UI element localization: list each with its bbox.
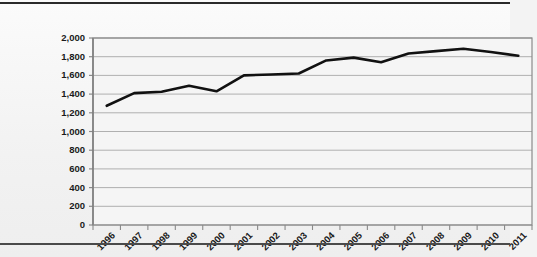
y-axis-tick-label: 1,600 <box>61 69 85 80</box>
line-chart-svg: 02004006008001,0001,2001,4001,6001,8002,… <box>40 22 537 256</box>
x-axis-tick-label-2010: 2010 <box>479 230 502 253</box>
x-axis-tick-label-1997: 1997 <box>122 230 145 253</box>
x-axis-tick-label-1999: 1999 <box>177 230 200 253</box>
x-axis-tick-label-2003: 2003 <box>286 230 309 253</box>
y-axis-tick-labels-group: 02004006008001,0001,2001,4001,6001,8002,… <box>61 32 85 230</box>
y-axis-tick-label: 200 <box>69 200 85 211</box>
x-axis-tick-label-2004: 2004 <box>314 229 337 252</box>
y-axis-tick-label: 1,800 <box>61 51 85 62</box>
x-axis-tick-label-1996: 1996 <box>94 230 117 253</box>
y-axis-tick-label: 2,000 <box>61 32 85 43</box>
y-axis-tick-label: 600 <box>69 163 85 174</box>
y-axis-tick-label: 800 <box>69 144 85 155</box>
y-axis-tick-label: 400 <box>69 182 85 193</box>
line-chart-figure: 02004006008001,0001,2001,4001,6001,8002,… <box>40 22 537 256</box>
x-axis-tick-label-2001: 2001 <box>232 229 255 252</box>
y-axis-tick-label: 1,400 <box>61 88 85 99</box>
x-axis-tick-label-2000: 2000 <box>204 230 227 253</box>
x-axis-tick-label-2005: 2005 <box>341 229 364 252</box>
y-axis-tick-label: 1,200 <box>61 107 85 118</box>
page-rule-top-divider <box>0 2 510 4</box>
y-axis-tick-label: 1,000 <box>61 126 85 137</box>
x-axis-tick-label-2009: 2009 <box>451 230 474 253</box>
x-tick-marks-group <box>93 225 532 230</box>
x-axis-tick-label-2006: 2006 <box>369 230 392 253</box>
page-rule-bottom-divider <box>0 243 510 245</box>
x-axis-tick-label-2011: 2011 <box>506 229 529 252</box>
x-axis-tick-label-2007: 2007 <box>396 230 419 253</box>
x-axis-tick-label-1998: 1998 <box>149 230 172 253</box>
x-axis-tick-label-2002: 2002 <box>259 230 282 253</box>
x-axis-tick-labels-group: 1996199719981999200020012002200320042005… <box>94 229 529 252</box>
y-axis-tick-label: 0 <box>80 219 85 230</box>
x-axis-tick-label-2008: 2008 <box>424 230 447 253</box>
